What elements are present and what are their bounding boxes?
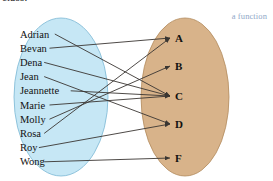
- domain-item-marie: Marie: [20, 100, 45, 111]
- codomain-item-B: B: [175, 60, 183, 72]
- clipped-caption-text: class.: [2, 0, 27, 3]
- domain-item-roy: Roy: [20, 142, 38, 153]
- codomain-item-C: C: [175, 90, 183, 102]
- function-annotation-label: a function: [232, 11, 267, 21]
- domain-item-adrian: Adrian: [20, 29, 50, 40]
- codomain-item-D: D: [175, 118, 183, 130]
- mapping-diagram-canvas: AdrianBevanDenaJeanJeannetteMarieMollyRo…: [0, 0, 273, 181]
- domain-item-jean: Jean: [20, 71, 39, 82]
- domain-item-rosa: Rosa: [20, 128, 41, 139]
- domain-item-bevan: Bevan: [20, 43, 48, 54]
- domain-item-wong: Wong: [20, 156, 46, 167]
- domain-item-molly: Molly: [20, 114, 46, 125]
- function-diagram-figure: class. a function AdrianBevanDenaJeanJea…: [0, 0, 273, 181]
- domain-item-jeannette: Jeannette: [20, 85, 59, 96]
- domain-item-dena: Dena: [20, 57, 42, 68]
- codomain-item-F: F: [175, 152, 182, 164]
- codomain-item-A: A: [175, 32, 183, 44]
